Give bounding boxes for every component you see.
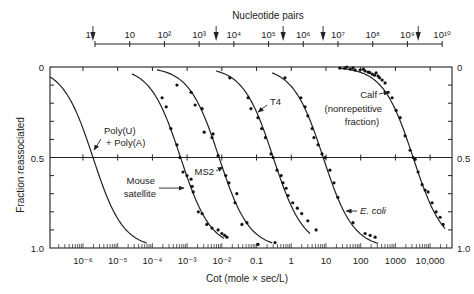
data-point-t4 bbox=[249, 107, 252, 110]
data-point-ms2 bbox=[216, 154, 219, 157]
data-point-e-coli bbox=[351, 221, 354, 224]
data-point-ms2 bbox=[224, 174, 227, 177]
data-point-t4 bbox=[281, 181, 284, 184]
annotation-label: fraction) bbox=[345, 116, 379, 127]
data-point-calf-nonrepetitive-fraction bbox=[435, 210, 438, 213]
x-tick-label: 10,000 bbox=[416, 255, 445, 266]
data-point-mouse-satellite bbox=[192, 190, 195, 193]
y-tick-label-right: 0 bbox=[457, 62, 462, 73]
x-tick-label: 10⁻² bbox=[212, 255, 231, 266]
data-points bbox=[160, 65, 444, 246]
chart-canvas: Nucleotide pairs 11010²10³10⁴10⁵10⁶10⁷10… bbox=[0, 0, 474, 294]
secondary-tick-label: 10⁷ bbox=[331, 29, 346, 40]
data-point-mouse-satellite bbox=[175, 143, 178, 146]
data-point-e-coli bbox=[299, 96, 302, 99]
size-marker-arrow-icon bbox=[90, 26, 95, 41]
x-tick-label: 1000 bbox=[385, 255, 406, 266]
data-point-ms2 bbox=[245, 221, 248, 224]
data-point-e-coli bbox=[328, 169, 331, 172]
annotation-label: T4 bbox=[270, 96, 281, 107]
data-point-calf-nonrepetitive-fraction bbox=[414, 158, 417, 161]
data-point-t4 bbox=[246, 96, 249, 99]
data-point-mouse-satellite bbox=[225, 236, 228, 239]
data-point-t4 bbox=[285, 187, 288, 190]
data-point-ms2 bbox=[201, 107, 204, 110]
data-point-mouse-satellite bbox=[197, 210, 200, 213]
data-point-mouse-satellite bbox=[169, 127, 172, 130]
data-point-calf-nonrepetitive-fraction bbox=[364, 69, 367, 72]
annotation-label: Poly(U) bbox=[104, 125, 136, 136]
annotation-mouse-satellite: Mousesatellite bbox=[124, 175, 184, 199]
fit-curve-t4 bbox=[216, 71, 310, 234]
data-point-calf-nonrepetitive-fraction bbox=[403, 134, 406, 137]
data-point-t4 bbox=[264, 136, 267, 139]
secondary-tick-label: 10⁴ bbox=[227, 29, 242, 40]
data-point-t4 bbox=[296, 207, 299, 210]
data-point-ms2 bbox=[233, 201, 236, 204]
plot-frame bbox=[50, 67, 452, 248]
data-point-mouse-satellite bbox=[165, 105, 168, 108]
y-tick-label-left: 0.5 bbox=[31, 153, 44, 164]
data-point-t4 bbox=[260, 127, 263, 130]
x-tick-label: 100 bbox=[353, 255, 369, 266]
data-point-e-coli bbox=[312, 136, 315, 139]
secondary-tick-label: 10⁵ bbox=[261, 29, 276, 40]
data-point-calf-nonrepetitive-fraction bbox=[349, 67, 352, 70]
x-tick-label: 10⁻⁵ bbox=[108, 255, 128, 266]
data-point-calf-nonrepetitive-fraction bbox=[416, 170, 419, 173]
annotation-label: + Poly(A) bbox=[106, 137, 145, 148]
data-point-calf-nonrepetitive-fraction bbox=[399, 116, 402, 119]
x-tick-label: 0.1 bbox=[250, 255, 263, 266]
data-point-mouse-satellite bbox=[160, 96, 163, 99]
data-point-calf-nonrepetitive-fraction bbox=[345, 65, 348, 68]
annotation-ms2: MS2 bbox=[194, 166, 223, 177]
annotation-label: Calf bbox=[360, 89, 377, 100]
data-point-calf-nonrepetitive-fraction bbox=[338, 66, 341, 69]
data-point-calf-nonrepetitive-fraction bbox=[439, 216, 442, 219]
y-tick-label-left: 1.0 bbox=[31, 243, 44, 254]
data-point-ms2 bbox=[203, 131, 206, 134]
data-point-ms2 bbox=[175, 84, 178, 87]
data-point-e-coli bbox=[311, 127, 314, 130]
y-axis-title: Fraction reassociated bbox=[15, 117, 26, 213]
data-point-t4 bbox=[315, 228, 318, 231]
x-tick-label: 10⁻³ bbox=[178, 255, 197, 266]
annotation-e-coli: E. coli bbox=[346, 205, 387, 216]
data-point-t4 bbox=[272, 156, 275, 159]
y-tick-label-right: 0.5 bbox=[457, 153, 470, 164]
fit-curve-calf-nonrepetitive-fraction bbox=[339, 68, 445, 228]
data-point-e-coli bbox=[316, 143, 319, 146]
data-point-mouse-satellite bbox=[191, 185, 194, 188]
data-point-e-coli bbox=[283, 76, 286, 79]
data-point-calf-nonrepetitive-fraction bbox=[358, 68, 361, 71]
data-point-t4 bbox=[269, 152, 272, 155]
data-point-mouse-satellite bbox=[189, 178, 192, 181]
secondary-tick-label: 10⁹ bbox=[400, 29, 415, 40]
data-point-calf-nonrepetitive-fraction bbox=[381, 78, 384, 81]
cot-curve-figure: Nucleotide pairs 11010²10³10⁴10⁵10⁶10⁷10… bbox=[0, 0, 474, 294]
data-point-calf-nonrepetitive-fraction bbox=[384, 81, 387, 84]
annotation-label: Mouse bbox=[126, 175, 155, 186]
data-point-t4 bbox=[286, 194, 289, 197]
data-point-t4 bbox=[256, 116, 259, 119]
data-point-calf-nonrepetitive-fraction bbox=[375, 71, 378, 74]
x-axis-title: Cot (mole × sec/L) bbox=[206, 273, 288, 284]
data-point-calf-nonrepetitive-fraction bbox=[442, 223, 445, 226]
plot-area: 10⁻⁶10⁻⁵10⁻⁴10⁻³10⁻²0.1110100100010,000 … bbox=[31, 62, 470, 266]
data-point-calf-nonrepetitive-fraction bbox=[431, 201, 434, 204]
data-point-calf-nonrepetitive-fraction bbox=[378, 76, 381, 79]
fit-curves bbox=[50, 68, 445, 243]
data-point-mouse-satellite bbox=[201, 212, 204, 215]
annotation-calf-nonrepetitive-fraction: Calf(nonrepetitivefraction) bbox=[325, 89, 390, 127]
annotation-arrow-icon bbox=[94, 139, 101, 150]
data-point-mouse-satellite bbox=[205, 223, 208, 226]
size-marker-arrow-icon bbox=[214, 26, 219, 41]
data-point-calf-nonrepetitive-fraction bbox=[395, 109, 398, 112]
annotation-label: MS2 bbox=[194, 166, 214, 177]
data-point-e-coli bbox=[320, 152, 323, 155]
data-point-mouse-satellite bbox=[216, 228, 219, 231]
data-point-ms2 bbox=[240, 223, 243, 226]
x-tick-label: 1 bbox=[289, 255, 294, 266]
x-tick-label: 10⁻⁶ bbox=[73, 255, 93, 266]
annotations: Poly(U)+ Poly(A)MousesatelliteMS2T4E. co… bbox=[94, 89, 389, 216]
